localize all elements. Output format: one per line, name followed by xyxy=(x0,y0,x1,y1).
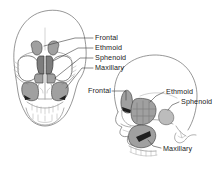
label-anterior-frontal: Frontal xyxy=(95,34,118,42)
anterior-sphenoid-sinus-left xyxy=(35,74,44,83)
anterior-sphenoid-sinus-right xyxy=(47,74,56,83)
anterior-skull-group xyxy=(14,10,93,126)
anterior-ethmoid-sinus-left xyxy=(37,56,44,74)
lateral-mandible-fragment xyxy=(175,133,196,143)
label-anterior-sphenoid: Sphenoid xyxy=(95,54,126,62)
lateral-sphenoid-sinus xyxy=(159,109,174,124)
lateral-ethmoid-sinus xyxy=(131,98,156,124)
label-lateral-frontal: Frontal xyxy=(88,87,111,95)
paranasal-sinuses-figure: Frontal Ethmoid Sphenoid Maxillary Front… xyxy=(0,0,222,169)
lateral-alveolar-line xyxy=(130,152,157,156)
label-anterior-maxillary: Maxillary xyxy=(95,64,124,72)
label-anterior-ethmoid: Ethmoid xyxy=(95,44,122,52)
label-lateral-maxillary: Maxillary xyxy=(163,145,192,153)
anterior-ethmoid-sinus-right xyxy=(46,56,53,74)
label-lateral-sphenoid: Sphenoid xyxy=(181,98,212,106)
label-lateral-ethmoid: Ethmoid xyxy=(166,88,193,96)
